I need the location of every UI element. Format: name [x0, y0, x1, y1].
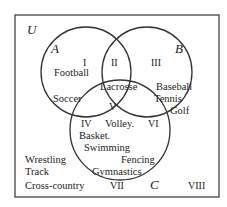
region-numeral-ii: II — [111, 57, 118, 68]
label-set-c: C — [150, 177, 159, 192]
region-numeral-iii: III — [151, 57, 161, 68]
region-numeral-vii: VII — [110, 180, 124, 191]
item-basket: Basket. — [79, 130, 110, 141]
item-lacrosse: Lacrosse — [100, 81, 138, 92]
label-set-b: B — [175, 41, 183, 56]
item-gymnastics: Gymnastics — [92, 166, 142, 177]
region-numeral-iv: IV — [81, 118, 92, 129]
item-cross-country: Cross-country — [25, 180, 85, 191]
item-baseball: Baseball — [156, 81, 192, 92]
label-set-a: A — [50, 41, 59, 56]
region-numeral-viii: VIII — [188, 180, 205, 191]
item-wrestling: Wrestling — [25, 154, 67, 165]
item-volley: Volley. — [105, 118, 134, 129]
item-football: Football — [54, 67, 89, 78]
item-tennis: Tennis — [154, 93, 182, 104]
region-numeral-v: V — [109, 101, 117, 112]
venn-diagram: U A B C I II III IV V VI VII VIII Footba… — [0, 0, 227, 207]
region-numeral-vi: VI — [148, 118, 159, 129]
label-universe: U — [27, 22, 38, 37]
item-track: Track — [25, 166, 50, 177]
item-swimming: Swimming — [84, 142, 131, 153]
item-soccer: Soccer — [53, 93, 82, 104]
item-golf: Golf — [170, 105, 190, 116]
item-fencing: Fencing — [121, 154, 156, 165]
